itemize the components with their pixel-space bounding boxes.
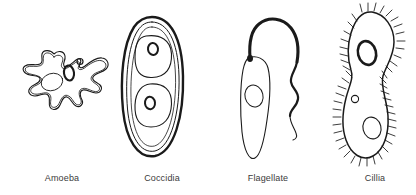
cillia-micronucleus	[351, 95, 358, 102]
flagellate-flagellum-tip	[290, 116, 297, 140]
organism-label-amoeba: Amoeba	[22, 173, 102, 184]
coccidia-sporocyst-upper	[135, 36, 172, 78]
coccidia-icon	[122, 17, 183, 156]
flagellate-flagellum-mid	[290, 62, 298, 116]
coccidia-inner-wall	[127, 22, 179, 151]
cillia-vacuole	[361, 115, 384, 141]
amoeba-icon	[23, 51, 108, 110]
flagellate-cell-body	[241, 57, 270, 159]
coccidia-nucleus-lower	[144, 96, 155, 109]
coccidia-sporocyst-lower	[135, 84, 172, 127]
cillia-cilia-fringe	[333, 3, 405, 166]
cillia-icon	[333, 3, 405, 166]
amoeba-pseudopod-outline	[23, 51, 108, 110]
flagellate-flagellum	[250, 19, 298, 62]
coccidia-nucleus-upper	[147, 43, 158, 56]
flagellate-icon	[241, 19, 298, 158]
protozoa-illustration	[0, 0, 416, 195]
organism-label-cillia: Cillia	[335, 173, 415, 184]
cillia-cell-body	[343, 12, 394, 158]
organism-label-flagellate: Flagellate	[228, 173, 308, 184]
flagellate-basal-body	[247, 55, 253, 62]
flagellate-nucleus	[243, 83, 266, 109]
organism-label-coccidia: Coccidia	[122, 173, 202, 184]
cillia-macronucleus	[355, 39, 378, 67]
amoeba-nucleus	[39, 71, 65, 94]
protozoa-figure: Amoeba Coccidia Flagellate Cillia	[0, 0, 416, 195]
